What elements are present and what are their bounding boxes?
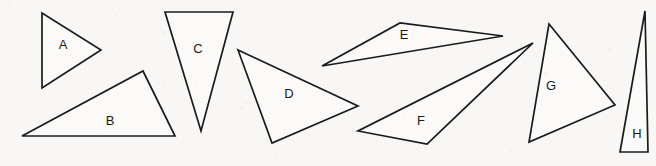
triangle-label-b: B xyxy=(106,113,115,128)
triangle-d xyxy=(238,50,358,143)
triangle-label-f: F xyxy=(417,113,425,128)
triangle-label-e: E xyxy=(400,27,409,42)
triangle-label-h: H xyxy=(632,126,641,141)
triangle-label-c: C xyxy=(193,41,202,56)
triangle-g xyxy=(529,24,615,142)
triangle-f xyxy=(358,43,533,144)
triangles-figure: ABCDEFGH xyxy=(0,0,656,166)
triangle-a xyxy=(42,13,101,88)
triangle-label-g: G xyxy=(546,78,556,93)
triangle-c xyxy=(165,12,233,131)
triangle-label-a: A xyxy=(59,37,68,52)
triangles-canvas: ABCDEFGH xyxy=(0,0,656,166)
triangle-label-d: D xyxy=(284,86,293,101)
triangle-e xyxy=(322,23,503,66)
